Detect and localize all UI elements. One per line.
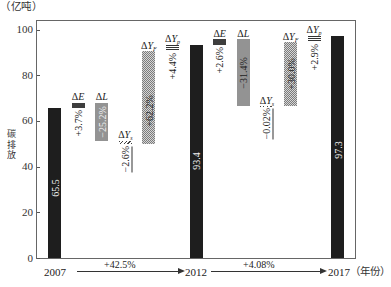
delta-label: ΔYF — [278, 31, 304, 42]
delta-percent-label: −2.6% — [120, 146, 133, 172]
bar-value-label: 93.4 — [191, 152, 202, 170]
period-change-2012-2017: +4.08% — [243, 259, 274, 270]
x-unit-label: （年份） — [350, 266, 390, 278]
delta-variable: E — [220, 28, 226, 39]
timeline-line-2 — [211, 271, 321, 272]
delta-percent-label: +62.2% — [143, 95, 154, 126]
year-label-2017: 2017 — [328, 266, 350, 278]
delta-bar — [119, 141, 132, 145]
y-tick-mark — [37, 258, 40, 259]
y-tick-label: 0 — [2, 253, 33, 264]
delta-variable: L — [244, 28, 250, 39]
y-tick-mark — [37, 75, 40, 76]
delta-subscript: F — [153, 46, 157, 52]
year-label-2012: 2012 — [185, 266, 207, 278]
delta-label: ΔYs — [254, 95, 280, 106]
delta-label: ΔL — [230, 28, 256, 39]
delta-bar — [72, 103, 85, 108]
delta-bar — [166, 45, 179, 52]
delta-variable: E — [78, 91, 84, 102]
delta-subscript: p — [177, 39, 180, 45]
delta-label: ΔE — [65, 91, 91, 102]
delta-variable: L — [102, 91, 108, 102]
delta-label: ΔYF — [136, 40, 162, 51]
y-tick-label: 100 — [2, 24, 33, 35]
y-tick-mark — [37, 212, 40, 213]
y-tick-mark — [37, 167, 40, 168]
delta-percent-label: −0.02% — [261, 108, 274, 139]
y-unit-label: （亿吨） — [0, 1, 42, 13]
arrow-right-icon — [320, 268, 327, 274]
delta-percent-label: +2.6% — [214, 47, 225, 73]
delta-label: ΔYp — [160, 33, 186, 44]
delta-label: ΔE — [207, 28, 233, 39]
delta-percent-label: −31.4% — [238, 57, 249, 88]
delta-subscript: F — [295, 37, 299, 43]
delta-percent-label: −25.2% — [96, 106, 107, 137]
delta-percent-label: +2.9% — [309, 44, 320, 70]
delta-subscript: s — [130, 135, 132, 141]
delta-percent-label: +30.0% — [285, 58, 296, 89]
waterfall-chart: （亿吨） 碳排放 2007 +42.5% 2012 +4.08% 2017 （年… — [0, 0, 391, 287]
delta-subscript: p — [319, 30, 322, 36]
delta-label: ΔYp — [301, 24, 327, 35]
delta-subscript: s — [272, 101, 274, 107]
period-change-2007-2012: +42.5% — [104, 259, 135, 270]
y-tick-mark — [37, 30, 40, 31]
bar-value-label: 97.3 — [332, 141, 343, 159]
y-tick-label: 80 — [2, 70, 33, 81]
y-tick-label: 60 — [2, 115, 33, 126]
delta-label: ΔYs — [112, 129, 138, 140]
delta-percent-label: +3.7% — [73, 110, 84, 136]
bar-value-label: 65.5 — [49, 179, 60, 197]
delta-label: ΔL — [89, 91, 115, 102]
delta-bar — [308, 36, 321, 42]
year-label-2007: 2007 — [44, 266, 66, 278]
arrow-right-icon — [178, 268, 185, 274]
delta-percent-label: +4.4% — [167, 53, 178, 79]
timeline-line-1 — [77, 271, 179, 272]
y-tick-label: 40 — [2, 161, 33, 172]
y-tick-mark — [37, 121, 40, 122]
y-axis-label: 碳排放 — [6, 129, 16, 161]
delta-bar — [213, 39, 226, 44]
y-tick-label: 20 — [2, 207, 33, 218]
